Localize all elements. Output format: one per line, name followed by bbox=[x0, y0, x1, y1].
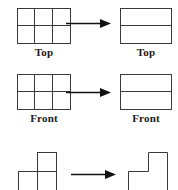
grid-cell bbox=[121, 75, 171, 92]
diagram-row-front: Front Front bbox=[0, 66, 178, 128]
front-left-grid bbox=[17, 74, 71, 110]
diagram-row-side bbox=[0, 150, 178, 190]
grid-cell bbox=[35, 9, 52, 26]
grid-cell bbox=[121, 26, 171, 43]
grid-cell bbox=[121, 92, 171, 109]
grid-cell bbox=[18, 26, 35, 43]
right-arrow-icon bbox=[70, 168, 118, 180]
right-arrow-icon bbox=[65, 17, 113, 29]
right-arrow-icon bbox=[65, 86, 113, 98]
diagram-row-top: Top Top bbox=[0, 0, 178, 60]
grid-cell bbox=[18, 92, 35, 109]
grid-cell bbox=[121, 9, 171, 26]
top-left-grid bbox=[17, 8, 71, 44]
grid-cell bbox=[35, 26, 52, 43]
caption-top-left: Top bbox=[17, 46, 71, 59]
grid-cell bbox=[35, 75, 52, 92]
caption-top-right: Top bbox=[120, 46, 172, 59]
grid-cell bbox=[18, 75, 35, 92]
caption-front-left: Front bbox=[10, 112, 78, 125]
caption-front-right: Front bbox=[113, 112, 178, 125]
side-right-l-outline bbox=[128, 152, 170, 190]
side-left-l-tromino bbox=[18, 152, 58, 190]
grid-cell bbox=[18, 9, 35, 26]
diagram-canvas: Top Top Front Front bbox=[0, 0, 178, 190]
front-right-grid bbox=[120, 74, 172, 110]
grid-cell bbox=[35, 92, 52, 109]
top-right-grid bbox=[120, 8, 172, 44]
